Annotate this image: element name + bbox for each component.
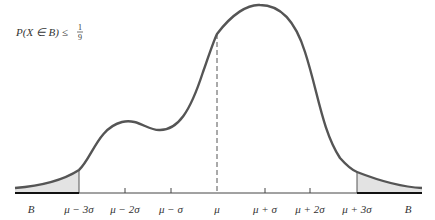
- label-mu-minus-2sigma: μ − 2σ: [109, 203, 140, 215]
- label-mu-plus-sigma: μ + σ: [252, 203, 277, 215]
- probability-bound-text: P(X ∈ B) ≤: [15, 26, 68, 39]
- density-curve: [15, 5, 422, 188]
- label-mu-plus-2sigma: μ + 2σ: [294, 203, 325, 215]
- left-tail-shade: [15, 170, 79, 193]
- label-b-left: B: [28, 203, 35, 215]
- label-mu-plus-3sigma: μ + 3σ: [341, 203, 372, 215]
- chebyshev-diagram: B μ − 3σ μ − 2σ μ − σ μ μ + σ μ + 2σ μ +…: [0, 0, 435, 220]
- label-mu-minus-sigma: μ − σ: [158, 203, 183, 215]
- label-b-right: B: [405, 203, 412, 215]
- label-mu: μ: [213, 203, 220, 215]
- label-mu-minus-3sigma: μ − 3σ: [63, 203, 94, 215]
- fraction-denominator: 9: [78, 33, 82, 42]
- fraction-numerator: 1: [78, 23, 82, 32]
